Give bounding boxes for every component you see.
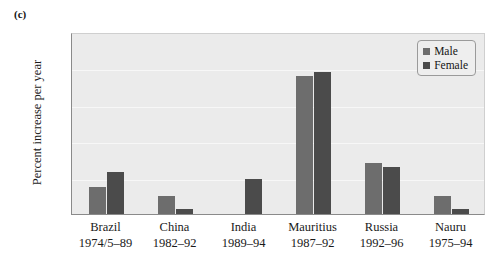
x-category-name: China: [140, 219, 209, 235]
bar-russia-male: [365, 163, 382, 214]
x-category-nauru: Nauru1975–94: [416, 219, 485, 251]
x-category-india: India1989–94: [209, 219, 278, 251]
bar-group: [72, 34, 141, 214]
bar-nauru-female: [452, 209, 469, 214]
bar-group: [210, 34, 279, 214]
x-category-russia: Russia1992–96: [347, 219, 416, 251]
x-category-period: 1975–94: [416, 235, 485, 251]
bar-group: [279, 34, 348, 214]
legend-swatch-male-icon: [423, 48, 430, 55]
bar-india-female: [245, 179, 262, 214]
x-category-name: Brazil: [71, 219, 140, 235]
bar-nauru-male: [434, 196, 451, 214]
legend-item-male: Male: [423, 44, 468, 58]
legend-label-male: Male: [434, 45, 458, 57]
x-category-mauritius: Mauritius1987–92: [278, 219, 347, 251]
bar-china-female: [176, 209, 193, 214]
bar-china-male: [158, 196, 175, 214]
x-category-name: Mauritius: [278, 219, 347, 235]
x-category-name: Russia: [347, 219, 416, 235]
y-axis-title: Percent increase per year: [30, 23, 45, 223]
bar-brazil-female: [107, 172, 124, 214]
x-category-name: India: [209, 219, 278, 235]
x-category-period: 1987–92: [278, 235, 347, 251]
bar-group: [348, 34, 417, 214]
bar-mauritius-female: [314, 72, 331, 214]
legend-item-female: Female: [423, 58, 468, 72]
legend: Male Female: [417, 40, 476, 76]
x-category-period: 1992–96: [347, 235, 416, 251]
plot-area: Male Female: [71, 33, 485, 215]
bar-brazil-male: [89, 187, 106, 214]
legend-swatch-female-icon: [423, 62, 430, 69]
panel-label: (c): [14, 8, 26, 20]
x-category-china: China1982–92: [140, 219, 209, 251]
bar-group: [141, 34, 210, 214]
x-category-period: 1974/5–89: [71, 235, 140, 251]
x-category-brazil: Brazil1974/5–89: [71, 219, 140, 251]
figure-panel-c: (c) Percent increase per year 012345 Mal…: [0, 0, 500, 263]
x-category-name: Nauru: [416, 219, 485, 235]
legend-label-female: Female: [434, 59, 468, 71]
bar-russia-female: [383, 167, 400, 214]
x-category-period: 1982–92: [140, 235, 209, 251]
x-category-period: 1989–94: [209, 235, 278, 251]
bar-mauritius-male: [296, 76, 313, 214]
